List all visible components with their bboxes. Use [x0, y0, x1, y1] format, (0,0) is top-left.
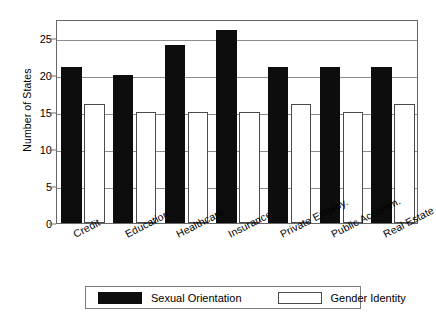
bar-sexual-orientation: [61, 67, 82, 223]
y-tick-label: 25: [0, 33, 52, 45]
legend-swatch-filled-icon: [98, 292, 142, 304]
y-tick-mark: [49, 75, 56, 76]
legend-item-sexual-orientation: Sexual Orientation: [98, 287, 242, 308]
bar-gender-identity: [84, 104, 105, 223]
gridline: [57, 40, 417, 41]
y-tick-mark: [49, 112, 56, 113]
legend-label-sexual-orientation: Sexual Orientation: [151, 292, 242, 304]
gridline: [57, 77, 417, 78]
y-tick-mark: [49, 149, 56, 150]
bar-sexual-orientation: [268, 67, 289, 223]
y-tick-label: 0: [0, 218, 52, 230]
y-tick-label: 5: [0, 181, 52, 193]
bar-gender-identity: [291, 104, 312, 223]
y-tick-label: 10: [0, 144, 52, 156]
bar-sexual-orientation: [165, 45, 186, 223]
y-tick-mark: [49, 38, 56, 39]
y-tick-label: 20: [0, 70, 52, 82]
y-tick-label: 15: [0, 107, 52, 119]
y-tick-mark: [49, 224, 56, 225]
bar-gender-identity: [136, 112, 157, 223]
bar-sexual-orientation: [216, 30, 237, 223]
legend-label-gender-identity: Gender Identity: [331, 292, 406, 304]
chart-legend: Sexual Orientation Gender Identity: [85, 286, 361, 309]
plot-area: [56, 20, 418, 224]
bar-gender-identity: [239, 112, 260, 223]
plot-inner: [57, 21, 417, 223]
legend-swatch-hollow-icon: [278, 292, 322, 304]
legend-item-gender-identity: Gender Identity: [278, 287, 406, 308]
bar-gender-identity: [188, 112, 209, 223]
bar-sexual-orientation: [113, 75, 134, 223]
y-tick-mark: [49, 186, 56, 187]
